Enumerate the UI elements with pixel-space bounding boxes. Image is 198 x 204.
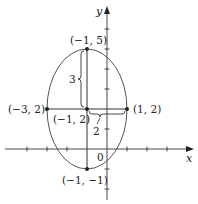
- point-bottom-vertex: [85, 167, 89, 171]
- label-left-vertex: (−3, 2): [8, 103, 45, 115]
- label-top-vertex: (−1, 5): [70, 34, 107, 46]
- point-top-vertex: [85, 47, 89, 51]
- ellipse-diagram: 3 2 (−1, 5) (−3, 2) (−1, 2) (1, 2) (−1, …: [0, 0, 198, 204]
- horizontal-brace-label: 2: [93, 125, 100, 137]
- y-axis-arrow-icon: [104, 6, 110, 14]
- origin-label: 0: [97, 151, 104, 163]
- label-center: (−1, 2): [53, 113, 90, 125]
- label-right-vertex: (1, 2): [133, 103, 161, 115]
- label-bottom-vertex: (−1, −1): [62, 174, 108, 186]
- vertical-brace-label: 3: [69, 73, 76, 85]
- point-left-vertex: [45, 107, 49, 111]
- horizontal-brace-leader: [97, 118, 100, 124]
- y-axis-label: y: [95, 5, 103, 18]
- vertical-brace: [78, 51, 84, 107]
- x-axis-label: x: [186, 152, 193, 165]
- point-center: [85, 107, 89, 111]
- point-right-vertex: [125, 107, 129, 111]
